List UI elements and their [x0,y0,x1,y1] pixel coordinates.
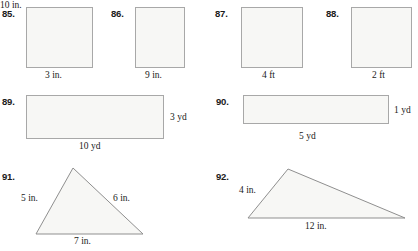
figure-92-triangle [244,165,410,223]
problem-number-86: 86. [111,8,124,19]
figure-91-bottom-label: 7 in. [74,236,91,246]
figure-90-rectangle [243,95,389,124]
problem-number-92: 92. [216,171,229,182]
figure-92-bottom-label: 12 in. [305,221,327,231]
figure-87-bottom-label: 4 ft [262,70,275,80]
figure-90-bottom-label: 5 yd [299,131,316,141]
figure-89-rectangle [26,95,164,139]
figure-91-right-label: 6 in. [113,193,130,203]
figure-88-square [351,7,412,68]
figure-90-right-label: 1 yd [394,105,411,115]
figure-86-bottom-label: 9 in. [145,70,162,80]
figure-85-square [26,7,93,68]
problem-number-87: 87. [215,8,228,19]
worksheet-page: 85. 3 in. 86. 9 in. 87. 4 ft 88. 2 ft 89… [0,0,418,251]
figure-92-right-label: 10 in. [0,0,22,10]
figure-86-square [135,7,185,68]
figure-85-bottom-label: 3 in. [45,70,62,80]
figure-92-left-label: 4 in. [239,185,256,195]
figure-88-bottom-label: 2 ft [372,70,385,80]
figure-89-right-label: 3 yd [170,112,187,122]
problem-number-89: 89. [2,96,15,107]
problem-number-90: 90. [216,96,229,107]
problem-number-88: 88. [326,8,339,19]
figure-91-triangle [30,165,150,240]
figure-87-square [241,7,303,68]
figure-91-left-label: 5 in. [21,193,38,203]
figure-89-bottom-label: 10 yd [79,141,100,151]
problem-number-91: 91. [2,171,15,182]
